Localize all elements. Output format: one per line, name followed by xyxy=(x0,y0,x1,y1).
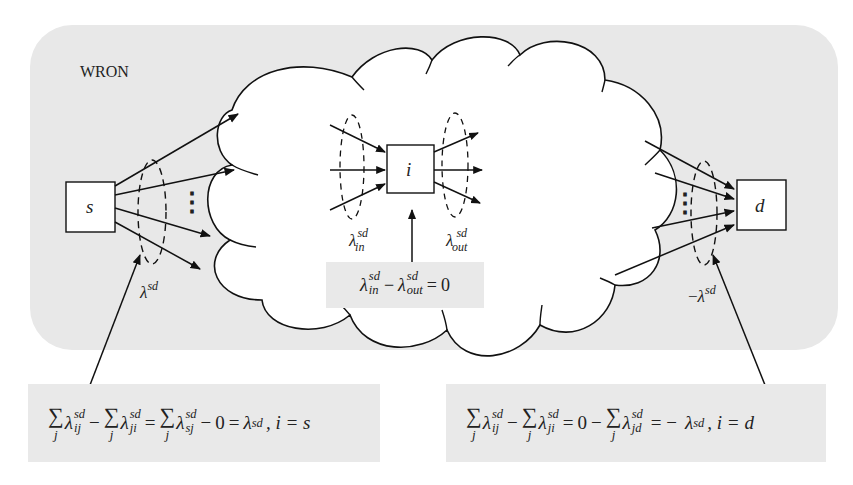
minus-sign: − xyxy=(384,275,394,296)
rhs-value: 0 xyxy=(441,275,450,296)
lambda-symbol: λ xyxy=(622,412,630,434)
minus-sign: − xyxy=(89,412,100,434)
intermediate-node-label: i xyxy=(406,159,411,180)
destination-ellipsis: ⋮ xyxy=(672,189,698,218)
equals-sign: = xyxy=(229,412,240,434)
region-label: WRON xyxy=(80,63,129,80)
superscript: sd xyxy=(252,416,263,431)
subscript: ij xyxy=(492,423,503,435)
node-conservation-equation: λ sdin − λ sdout = 0 xyxy=(326,262,484,308)
destination-conservation-equation: ∑j λ sdij − ∑j λ sdji = 0 − ∑j λ sdjd = … xyxy=(446,384,826,462)
summation: ∑j xyxy=(466,405,482,441)
subscript: ji xyxy=(548,423,559,435)
superscript: sd xyxy=(693,416,704,431)
superscript: sd xyxy=(185,409,196,421)
subscript: out xyxy=(407,285,423,297)
summation: ∑j xyxy=(606,405,622,441)
subscript: jd xyxy=(632,423,643,435)
superscript: sd xyxy=(492,409,503,421)
source-node: s xyxy=(66,182,115,232)
subscript: sj xyxy=(185,423,196,435)
lambda-symbol: λ xyxy=(176,412,184,434)
network-cloud xyxy=(208,37,677,356)
superscript: sd xyxy=(74,409,85,421)
result-prefix: = − xyxy=(651,412,677,434)
source-conservation-equation: ∑j λ sdij − ∑j λ sdji = ∑j λ sdsj − 0 = … xyxy=(28,384,380,462)
minus-sign: − xyxy=(507,412,518,434)
lambda-symbol: λ xyxy=(65,412,73,434)
equals-sign: = xyxy=(427,275,437,296)
subscript: ij xyxy=(74,423,85,435)
summation: ∑j xyxy=(104,405,120,441)
condition-text: , i = d xyxy=(707,412,754,434)
lambda-symbol: λ xyxy=(244,412,252,434)
superscript: sd xyxy=(369,271,380,283)
source-node-label: s xyxy=(86,196,93,217)
zero-term: 0 xyxy=(578,412,588,434)
minus-sign: − xyxy=(591,412,602,434)
superscript: sd xyxy=(548,409,559,421)
minus-sign: − xyxy=(201,412,212,434)
intermediate-node: i xyxy=(387,145,434,193)
superscript: sd xyxy=(632,409,643,421)
lambda-symbol: λ xyxy=(360,275,368,296)
superscript: sd xyxy=(130,409,141,421)
summation: ∑j xyxy=(522,405,538,441)
lambda-symbol: λ xyxy=(398,275,406,296)
destination-node: d xyxy=(737,180,786,230)
summation: ∑j xyxy=(48,405,64,441)
condition-text: , i = s xyxy=(266,412,311,434)
lambda-symbol: λ xyxy=(685,412,693,434)
zero-term: 0 xyxy=(215,412,225,434)
lambda-symbol: λ xyxy=(483,412,491,434)
summation: ∑j xyxy=(160,405,176,441)
source-ellipsis: ⋮ xyxy=(179,188,205,217)
equals-sign: = xyxy=(563,412,574,434)
lambda-symbol: λ xyxy=(538,412,546,434)
destination-node-label: d xyxy=(755,195,765,216)
node-out-flow-label: λsdout xyxy=(445,226,468,254)
subscript: ji xyxy=(130,423,141,435)
lambda-symbol: λ xyxy=(120,412,128,434)
subscript: in xyxy=(369,285,380,297)
equals-sign: = xyxy=(145,412,156,434)
superscript: sd xyxy=(407,271,423,283)
